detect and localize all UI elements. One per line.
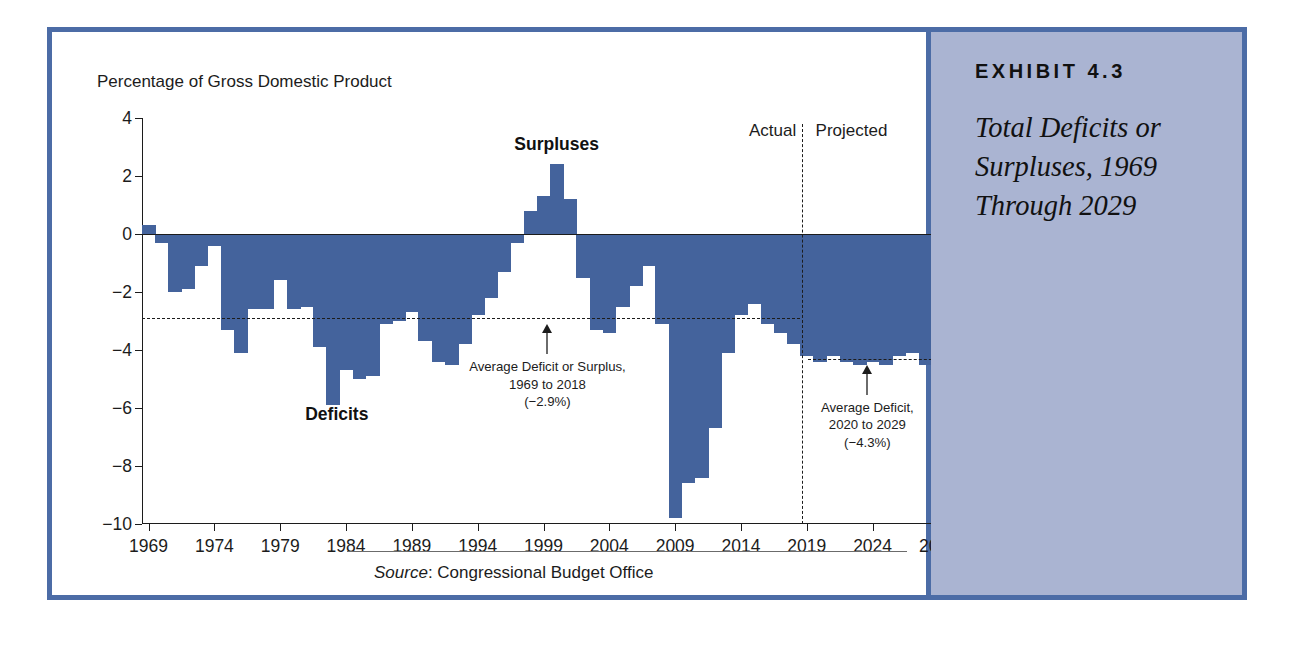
x-tick-label: 2009: [656, 536, 695, 557]
x-tick-label: 2004: [590, 536, 629, 557]
annotation-line: Average Deficit or Surplus,: [469, 358, 626, 376]
bar: [142, 225, 156, 234]
x-tick-label: 2024: [853, 536, 892, 557]
bar: [484, 234, 498, 298]
bar: [260, 234, 274, 309]
annotation-text-average-2020-2029: Average Deficit,2020 to 2029(−4.3%): [821, 399, 914, 452]
bar: [353, 234, 367, 379]
bar: [576, 234, 590, 278]
x-tick-label: 1999: [524, 536, 563, 557]
x-tick-mark: [280, 523, 281, 531]
bar: [274, 234, 288, 280]
bar: [326, 234, 340, 405]
bar: [734, 234, 748, 315]
bar: [906, 234, 920, 353]
x-tick-mark: [609, 523, 610, 531]
bar: [247, 234, 261, 309]
source-note: Source: Congressional Budget Office: [374, 563, 653, 583]
bar: [721, 234, 735, 353]
bar: [892, 234, 906, 356]
bar: [471, 234, 485, 315]
bar: [682, 234, 696, 483]
bar: [853, 234, 867, 365]
x-tick-mark: [346, 523, 347, 531]
bar: [590, 234, 604, 330]
y-tick-label: 2: [122, 166, 132, 187]
bar: [300, 234, 314, 307]
bar: [879, 234, 893, 365]
chart-panel: Percentage of Gross Domestic Product 420…: [47, 27, 931, 600]
x-tick-label: 1989: [392, 536, 431, 557]
bar: [813, 234, 827, 362]
bar: [524, 211, 538, 234]
bar: [458, 234, 472, 344]
bar: [550, 164, 564, 234]
bar: [313, 234, 327, 347]
y-tick-mark: [135, 234, 142, 235]
bar: [655, 234, 669, 324]
exhibit-title: Total Deficits orSurpluses, 1969Through …: [975, 109, 1215, 225]
bar: [669, 234, 683, 518]
y-tick-label: −2: [112, 282, 132, 303]
x-tick-label: 1994: [458, 536, 497, 557]
annotation-line: 1969 to 2018: [469, 376, 626, 394]
bar: [181, 234, 195, 289]
bar: [234, 234, 248, 353]
annotation-line: 2020 to 2029: [821, 416, 914, 434]
y-tick-label: 0: [122, 224, 132, 245]
zero-baseline: [142, 234, 945, 235]
y-tick-mark: [135, 466, 142, 467]
bar: [563, 199, 577, 234]
bar: [405, 234, 419, 312]
y-tick-label: −10: [102, 514, 132, 535]
plot-area: 420−2−4−6−8−1019691974197919841989199419…: [142, 118, 945, 524]
bar: [168, 234, 182, 292]
exhibit-container: Percentage of Gross Domestic Product 420…: [47, 27, 1247, 600]
bar: [511, 234, 525, 243]
bar: [445, 234, 459, 365]
exhibit-title-line: Total Deficits or: [975, 109, 1215, 148]
y-tick-label: −6: [112, 398, 132, 419]
source-label: Source: [374, 563, 428, 582]
annotation-arrow-average-2020-2029: [861, 365, 874, 399]
bar: [195, 234, 209, 266]
bar: [708, 234, 722, 428]
bar: [616, 234, 630, 307]
surpluses-label: Surpluses: [514, 134, 599, 155]
source-separator: :: [428, 563, 437, 582]
exhibit-title-line: Surpluses, 1969: [975, 148, 1215, 187]
exhibit-number: EXHIBIT 4.3: [975, 60, 1215, 83]
bar: [695, 234, 709, 478]
x-tick-label: 1984: [327, 536, 366, 557]
bar: [787, 234, 801, 344]
exhibit-title-line: Through 2029: [975, 187, 1215, 226]
y-tick-mark: [135, 524, 142, 525]
bar: [339, 234, 353, 370]
bar: [432, 234, 446, 362]
source-divider: [347, 551, 907, 552]
x-tick-mark: [412, 523, 413, 531]
bar: [827, 234, 841, 356]
x-tick-label: 2014: [721, 536, 760, 557]
era-label-projected: Projected: [816, 121, 888, 141]
y-tick-label: −8: [112, 456, 132, 477]
bar: [418, 234, 432, 341]
bar: [629, 234, 643, 286]
bar: [366, 234, 380, 376]
y-axis-title: Percentage of Gross Domestic Product: [97, 72, 392, 92]
bar: [866, 234, 880, 362]
x-tick-label: 2019: [787, 536, 826, 557]
actual-projected-divider: [802, 124, 803, 524]
y-tick-label: 4: [122, 108, 132, 129]
bar: [497, 234, 511, 272]
era-label-actual: Actual: [749, 121, 796, 141]
bar: [642, 234, 656, 266]
x-tick-label: 1979: [261, 536, 300, 557]
annotation-text-average-1969-2018: Average Deficit or Surplus,1969 to 2018(…: [469, 358, 626, 411]
x-tick-label: 1974: [195, 536, 234, 557]
annotation-line: (−4.3%): [821, 434, 914, 452]
exhibit-sidebar: EXHIBIT 4.3 Total Deficits orSurpluses, …: [931, 27, 1247, 600]
x-tick-mark: [544, 523, 545, 531]
y-tick-mark: [135, 118, 142, 119]
y-tick-mark: [135, 350, 142, 351]
